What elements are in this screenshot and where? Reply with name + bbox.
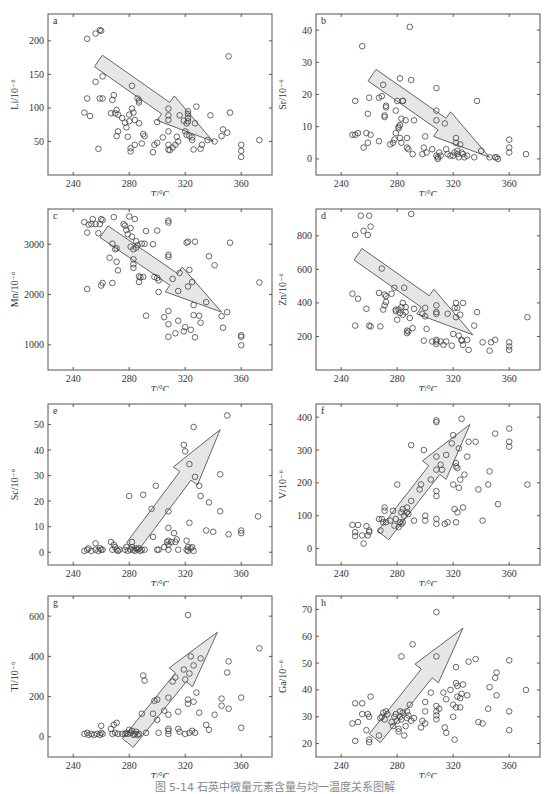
data-point-marker xyxy=(359,43,365,49)
data-point-marker xyxy=(480,518,486,524)
data-point-marker xyxy=(166,525,172,531)
figure-caption: 图 5-14 石英中微量元素含量与均一温度关系图解 xyxy=(0,778,550,794)
data-point-marker xyxy=(350,721,356,727)
y-tick-label: 400 xyxy=(297,297,312,308)
y-tick-label: 400 xyxy=(297,412,312,423)
data-point-marker xyxy=(98,723,104,729)
x-tick-label: 320 xyxy=(446,178,461,189)
data-point-marker xyxy=(224,309,230,315)
y-tick-label: 600 xyxy=(297,264,312,275)
data-point-marker xyxy=(227,110,233,116)
data-point-marker xyxy=(429,146,435,152)
data-point-marker xyxy=(166,712,172,718)
data-point-marker xyxy=(219,696,225,702)
data-point-marker xyxy=(456,485,462,491)
data-point-marker xyxy=(450,482,456,488)
data-point-marker xyxy=(441,690,447,696)
data-point-marker xyxy=(355,296,361,302)
panel-letter: b xyxy=(321,15,326,26)
x-tick-label: 320 xyxy=(178,178,193,189)
data-point-marker xyxy=(459,416,465,422)
data-point-marker xyxy=(219,313,225,319)
data-point-marker xyxy=(352,738,358,744)
data-point-marker xyxy=(434,609,440,615)
data-point-marker xyxy=(150,149,156,155)
data-point-marker xyxy=(382,292,388,298)
data-point-marker xyxy=(525,314,531,320)
scatter-panel-a: 24028032036050100150200aT/°CLi/10⁻⁶ xyxy=(0,0,282,200)
data-point-marker xyxy=(485,706,491,712)
data-point-marker xyxy=(407,24,413,30)
data-point-marker xyxy=(131,265,137,271)
y-tick-label: 100 xyxy=(297,510,312,521)
data-point-marker xyxy=(471,323,477,329)
data-point-marker xyxy=(111,214,117,220)
y-tick-label: 1000 xyxy=(24,339,44,350)
data-point-marker xyxy=(358,213,364,219)
x-tick-label: 360 xyxy=(502,373,517,384)
y-axis-label: Mn/10⁻⁶ xyxy=(9,271,20,307)
data-point-marker xyxy=(110,280,116,286)
data-point-marker xyxy=(187,520,193,526)
y-tick-label: 200 xyxy=(29,691,44,702)
data-point-marker xyxy=(194,104,200,110)
y-tick-label: 40 xyxy=(34,445,44,456)
data-point-marker xyxy=(361,541,367,547)
y-tick-label: 30 xyxy=(302,57,312,68)
data-point-marker xyxy=(397,122,403,128)
data-point-marker xyxy=(100,74,106,80)
data-point-marker xyxy=(227,240,233,246)
data-point-marker xyxy=(382,508,388,514)
y-tick-label: 0 xyxy=(307,543,312,554)
y-tick-label: 20 xyxy=(34,496,44,507)
data-point-marker xyxy=(166,308,172,314)
data-point-marker xyxy=(96,146,102,152)
data-point-marker xyxy=(404,145,410,151)
data-point-marker xyxy=(424,326,430,332)
x-axis-label: T/°C xyxy=(418,771,437,778)
x-tick-label: 360 xyxy=(234,178,249,189)
data-point-marker xyxy=(194,690,200,696)
data-point-marker xyxy=(383,293,389,299)
data-point-marker xyxy=(428,690,434,696)
y-tick-label: 800 xyxy=(297,230,312,241)
data-point-marker xyxy=(182,449,188,455)
x-tick-label: 280 xyxy=(122,568,137,579)
data-point-marker xyxy=(212,712,218,718)
data-point-marker xyxy=(166,321,172,327)
data-points xyxy=(350,24,529,162)
data-point-marker xyxy=(473,439,479,445)
data-point-marker xyxy=(403,723,409,729)
trend-arrow-icon xyxy=(369,628,463,742)
data-point-marker xyxy=(87,113,93,119)
scatter-panel-b: 240280320360010203040bT/°CSr/10⁻⁶ xyxy=(268,0,550,200)
data-point-marker xyxy=(184,538,190,544)
data-point-marker xyxy=(175,547,181,553)
data-point-marker xyxy=(506,709,512,715)
data-point-marker xyxy=(359,701,365,707)
data-point-marker xyxy=(397,76,403,82)
data-point-marker xyxy=(394,317,400,323)
data-point-marker xyxy=(82,110,88,116)
x-tick-label: 320 xyxy=(178,373,193,384)
data-point-marker xyxy=(212,263,218,269)
y-tick-label: 20 xyxy=(302,89,312,100)
x-tick-label: 320 xyxy=(178,568,193,579)
data-point-marker xyxy=(84,36,90,42)
data-point-marker xyxy=(84,286,90,292)
data-point-marker xyxy=(401,733,407,739)
data-point-marker xyxy=(382,505,388,511)
data-point-marker xyxy=(506,658,512,664)
data-point-marker xyxy=(392,137,398,143)
data-point-marker xyxy=(365,140,371,146)
data-point-marker xyxy=(523,151,529,157)
data-point-marker xyxy=(365,111,371,117)
x-tick-label: 280 xyxy=(390,568,405,579)
data-point-marker xyxy=(84,96,90,102)
data-point-marker xyxy=(359,711,365,717)
data-point-marker xyxy=(421,447,427,453)
x-tick-label: 280 xyxy=(122,178,137,189)
y-axis-label: Zn/10⁻⁶ xyxy=(277,273,288,306)
panel-letter: d xyxy=(321,210,326,221)
x-tick-label: 240 xyxy=(66,373,81,384)
